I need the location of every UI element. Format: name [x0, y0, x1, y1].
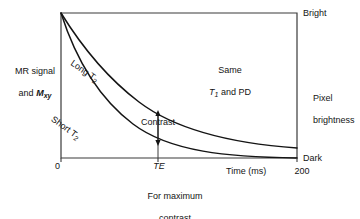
pixel-label-line2: brightness [313, 115, 355, 125]
x-tick-label-origin: 0 [55, 161, 60, 172]
pixel-label-line1: Pixel [313, 93, 333, 103]
pixel-brightness-label: Pixel brightness [303, 82, 359, 137]
same-t1-pd-note: Same T1 and PD [183, 54, 267, 109]
axis-label-dark: Dark [303, 153, 322, 164]
y-axis-label: MR signal and Mxy [2, 55, 58, 110]
same-note-symbol: T [209, 87, 215, 97]
same-note-line1: Same [218, 65, 242, 75]
x-tick-label-te: TE [148, 161, 170, 172]
y-axis-label-prefix: and [19, 88, 37, 98]
caption-line2: contrast [159, 213, 191, 219]
x-tick-label-end: 200 [290, 166, 314, 177]
x-axis-title: Time (ms) [226, 166, 266, 177]
t2-decay-contrast-figure: MR signal and Mxy Same T1 and PD Long T2… [0, 0, 360, 219]
contrast-arrow [155, 110, 160, 146]
contrast-label: Contrast [129, 117, 187, 128]
same-note-symbol-subscript: 1 [215, 91, 219, 98]
y-axis-label-symbol-subscript: xy [44, 92, 52, 99]
y-axis-label-symbol: M [36, 88, 44, 98]
y-axis-label-line1: MR signal [15, 66, 55, 76]
caption-line1: For maximum [148, 191, 203, 201]
axis-label-bright: Bright [303, 8, 327, 19]
figure-caption: For maximum contrast [110, 180, 230, 219]
same-note-line2-suffix: and PD [218, 87, 251, 97]
